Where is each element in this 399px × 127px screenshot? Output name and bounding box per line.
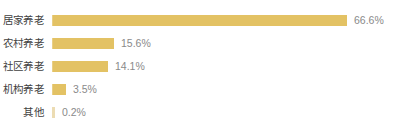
bar-其他[interactable] <box>52 107 55 118</box>
bar-track: 14.1% <box>52 61 399 72</box>
category-label: 居家养老 <box>0 15 52 26</box>
chart-row: 机构养老 3.5% <box>0 78 399 101</box>
bar-value-label: 15.6% <box>121 38 151 49</box>
chart-row: 居家养老 66.6% <box>0 9 399 32</box>
category-label: 农村养老 <box>0 38 52 49</box>
bar-value-label: 0.2% <box>62 107 86 118</box>
bar-value-label: 14.1% <box>115 61 145 72</box>
bar-track: 0.2% <box>52 107 399 118</box>
chart-row: 其他 0.2% <box>0 101 399 124</box>
category-label: 机构养老 <box>0 84 52 95</box>
chart-row: 社区养老 14.1% <box>0 55 399 78</box>
bar-track: 66.6% <box>52 15 399 26</box>
bar-track: 3.5% <box>52 84 399 95</box>
bar-value-label: 3.5% <box>73 84 97 95</box>
bar-value-label: 66.6% <box>354 15 384 26</box>
bar-社区养老[interactable] <box>52 61 108 72</box>
bar-track: 15.6% <box>52 38 399 49</box>
bar-居家养老[interactable] <box>52 15 347 26</box>
bar-农村养老[interactable] <box>52 38 114 49</box>
bar-机构养老[interactable] <box>52 84 66 95</box>
category-label: 社区养老 <box>0 61 52 72</box>
horizontal-bar-chart: 居家养老 66.6% 农村养老 15.6% 社区养老 14.1% 机构养老 3.… <box>0 0 399 127</box>
chart-row: 农村养老 15.6% <box>0 32 399 55</box>
category-label: 其他 <box>0 107 52 118</box>
